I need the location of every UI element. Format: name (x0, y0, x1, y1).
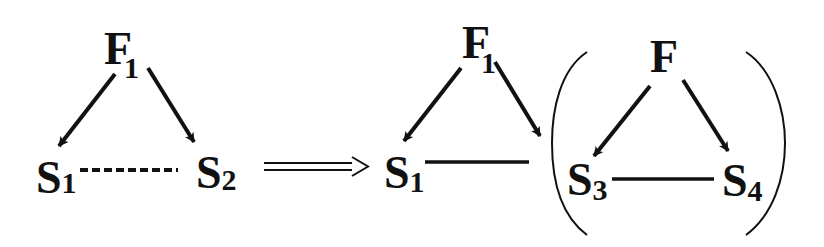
middle-top-node: F1 (462, 17, 496, 79)
left-parenthesis (552, 52, 587, 235)
right-parenthesis (746, 52, 785, 235)
left-node-s2: S2 (196, 147, 237, 198)
middle-node-s1: S1 (384, 147, 425, 198)
left-diagram: F1 S1 S2 (36, 23, 237, 203)
arrow-f-to-s3 (594, 86, 650, 156)
left-node-s1-subscript: 1 (62, 166, 77, 199)
right-node-s4-label: S (722, 155, 748, 206)
right-diagram: F S3 S4 (552, 31, 785, 235)
arrow-f1-to-group (495, 62, 540, 136)
middle-top-node-subscript: 1 (481, 46, 496, 79)
right-node-s3: S3 (567, 154, 608, 206)
left-node-s2-label: S (196, 147, 222, 198)
right-node-s4: S4 (722, 155, 763, 207)
arrow-f-to-s4 (683, 80, 728, 151)
arrow-f1-to-s1-middle (404, 68, 461, 141)
left-node-s2-subscript: 2 (222, 163, 237, 196)
middle-node-s1-label: S (384, 147, 410, 198)
left-top-node: F1 (104, 23, 139, 84)
left-node-s1: S1 (36, 152, 77, 203)
middle-diagram: F1 S1 (384, 17, 540, 198)
left-node-s1-label: S (36, 152, 62, 203)
arrow-f1-to-s1 (59, 74, 115, 146)
middle-node-s1-subscript: 1 (410, 165, 425, 198)
implies-arrow-icon (264, 157, 368, 176)
right-top-node-label: F (650, 31, 678, 82)
arrow-f1-to-s2 (148, 68, 194, 142)
right-node-s4-subscript: 4 (748, 174, 763, 207)
right-top-node: F (650, 31, 678, 82)
left-top-node-subscript: 1 (124, 51, 139, 84)
right-node-s3-subscript: 3 (593, 173, 608, 206)
right-node-s3-label: S (567, 154, 593, 205)
diagram-canvas: F1 S1 S2 F1 S1 F (0, 0, 824, 247)
